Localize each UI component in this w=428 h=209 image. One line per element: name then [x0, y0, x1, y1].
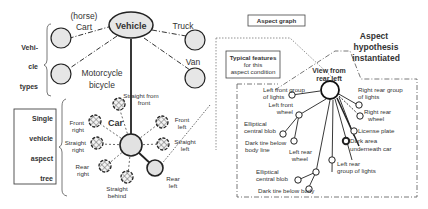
label-right-rear-wheel-2: wheel: [367, 115, 384, 122]
label-rear-left-1: Rear: [166, 175, 179, 182]
node-dark-tire-1: [291, 138, 297, 144]
label-right-rear-lights-1: Right rear group: [358, 86, 403, 93]
edge-vehicle-motorcycle: [70, 36, 117, 68]
aspect-node-rear-right: [99, 160, 111, 172]
label-left-rear-lights-1: Left rear: [337, 160, 360, 167]
aspect-graph-section: Aspect graph Typical features for this a…: [216, 15, 417, 197]
motorcycle-node: [51, 64, 71, 84]
aspect-tree-label-1: Single: [32, 115, 53, 123]
label-dark-tire-2: Dark tire below body: [258, 187, 315, 194]
bicycle-label: bicycle: [89, 80, 115, 90]
vehicle-types-label-3: types: [20, 83, 38, 91]
label-elliptical-blob-2b: central blob: [256, 175, 289, 182]
label-rear-right-1: Rear: [76, 163, 89, 170]
label-rear-left-2: left: [169, 182, 178, 189]
label-straight-front-1: Straight from: [123, 92, 158, 99]
aspect-tree-label-3: aspect: [31, 155, 54, 163]
typical-features-label-3: aspect condition: [231, 68, 276, 75]
truck-node: [185, 30, 205, 50]
label-straight-behind-2: behind: [108, 192, 127, 199]
vehicle-label: Vehicle: [115, 21, 146, 31]
cart-label: Cart: [76, 22, 93, 32]
vehicle-types-label-1: Vehi-: [21, 44, 38, 51]
node-left-rear-wheel: [313, 169, 319, 175]
node-right-rear-lights: [356, 102, 362, 108]
label-dark-tire-1a: Dark tire below: [245, 139, 287, 146]
label-left-rear-wheel-2: wheel: [291, 155, 308, 162]
label-front-left-2: left: [178, 123, 187, 130]
label-elliptical-blob-1b: central blob: [244, 127, 277, 134]
node-license-plate: [351, 128, 357, 134]
label-front-right-2: right: [72, 126, 84, 133]
label-right-rear-wheel-1: Right rear: [364, 108, 391, 115]
label-straight-behind-1: Straight: [106, 185, 128, 192]
aspect-node-straight-behind: [121, 171, 133, 183]
aspect-node-straight-left: [157, 138, 169, 150]
typical-features-label-2: for this: [244, 61, 263, 68]
label-elliptical-blob-2a: Elliptical: [256, 168, 279, 175]
node-left-rear-lights: [329, 157, 335, 163]
aspect-node-straight-right: [91, 137, 103, 149]
node-dark-area: [343, 138, 349, 144]
node-elliptical-blob-2: [295, 177, 301, 183]
label-dark-area-2: underneath car: [350, 145, 392, 152]
label-straight-left-1: Straight: [174, 138, 196, 145]
label-left-front-wheel-1: Left front: [269, 101, 294, 108]
label-left-rear-wheel-1: Left rear: [289, 148, 312, 155]
car-label: Car: [108, 118, 124, 128]
label-front-left-1: Front: [175, 116, 190, 123]
cart-node: [51, 28, 71, 48]
node-right-rear-wheel: [357, 113, 363, 119]
label-left-front-wheel-2: wheel: [276, 108, 293, 115]
aspect-node-front-right: [89, 115, 101, 127]
edge-vehicle-van: [144, 38, 190, 70]
node-elliptical-blob-1: [280, 131, 286, 137]
label-front-right-1: Front: [70, 119, 85, 126]
aspect-tree-label-2: vehicle: [29, 135, 53, 142]
hypothesis-label-2: hypothesis: [354, 42, 399, 52]
vehicle-types-label-2: cle: [28, 63, 38, 70]
view-node: [321, 81, 339, 99]
aspect-tree-section: Single vehicle aspect tree: [14, 92, 210, 199]
label-dark-area-1: Dark area: [350, 137, 378, 144]
hypothesis-label-1: Aspect: [360, 31, 389, 41]
aspect-node-front-left: [156, 116, 168, 128]
car-node: [120, 134, 142, 156]
aspect-tree-label-4: tree: [40, 175, 53, 182]
motorcycle-label: Motorcycle: [81, 68, 122, 78]
label-straight-right-2: right: [72, 146, 84, 153]
label-right-rear-lights-2: of lights: [358, 93, 379, 100]
van-label: Van: [186, 57, 201, 67]
label-left-front-lights-1: Left front group: [263, 86, 306, 93]
label-elliptical-blob-1a: Elliptical: [244, 120, 267, 127]
label-dark-tire-1b: body line: [245, 146, 270, 153]
label-rear-right-2: right: [77, 170, 89, 177]
label-license-plate: License plate: [358, 127, 395, 134]
aspect-tree-bracket: [59, 99, 67, 196]
aspect-graph-title: Aspect graph: [257, 17, 297, 24]
label-straight-left-2: left: [181, 145, 190, 152]
label-left-rear-lights-2: group of lights: [337, 167, 376, 174]
truck-label: Truck: [173, 21, 195, 31]
label-straight-front-2: front: [138, 99, 151, 106]
label-left-front-lights-2: of lights: [263, 93, 284, 100]
aspect-diagram: Vehicle (horse) Cart Truck Van Motorcycl…: [0, 0, 428, 209]
typical-features-label-1: Typical features: [230, 54, 277, 61]
hypothesis-label-3: instantiated: [352, 53, 400, 63]
node-left-front-wheel: [296, 112, 302, 118]
cart-qualifier-label: (horse): [71, 11, 98, 21]
aspect-node-straight-front: [113, 98, 125, 110]
vehicle-types-bracket: [44, 24, 51, 96]
van-node: [185, 68, 205, 88]
view-label-1: View from: [312, 67, 345, 74]
aspect-node-rear-left: [147, 160, 163, 176]
label-straight-right-1: Straight: [65, 139, 87, 146]
